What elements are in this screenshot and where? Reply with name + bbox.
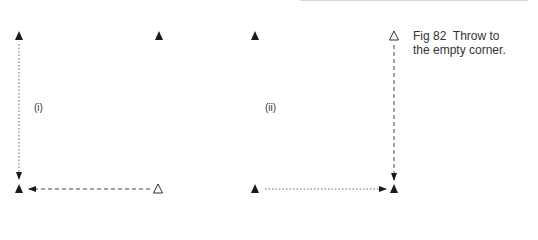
player-filled-triangle-icon: [15, 31, 23, 40]
player-filled-triangle-icon: [251, 184, 259, 193]
panel-label-i: (i): [34, 102, 43, 113]
panel-label-ii: (ii): [265, 102, 276, 113]
player-filled-triangle-icon: [251, 31, 259, 40]
player-open-triangle-icon: [390, 31, 399, 40]
player-filled-triangle-icon: [155, 31, 163, 40]
player-filled-triangle-icon: [390, 184, 398, 193]
player-filled-triangle-icon: [15, 184, 23, 193]
caption-line-2: the empty corner.: [413, 43, 538, 57]
player-open-triangle-icon: [154, 184, 163, 193]
figure-caption: Fig 82 Throw to the empty corner.: [413, 29, 538, 57]
caption-line-1: Fig 82 Throw to: [413, 29, 538, 43]
